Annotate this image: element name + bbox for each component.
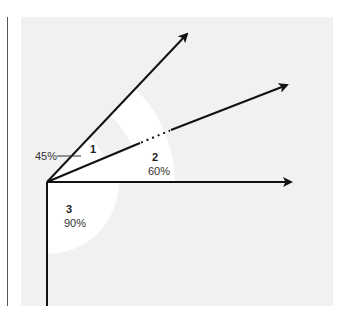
region-1-value: 45%	[35, 150, 57, 162]
region-3-value: 90%	[64, 217, 86, 229]
region-2-label: 2	[152, 151, 158, 163]
angle-diagram: 45% 1 2 60% 3 90%	[0, 0, 351, 324]
region-1-label: 1	[90, 143, 96, 155]
region-3-label: 3	[66, 203, 72, 215]
region-2-value: 60%	[148, 165, 170, 177]
